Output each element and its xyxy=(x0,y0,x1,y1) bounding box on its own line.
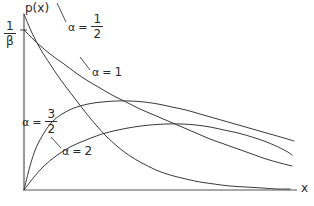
curve-label-alpha-two: α = 2 xyxy=(62,145,92,157)
x-axis-label: x xyxy=(301,182,308,194)
alpha-symbol: α xyxy=(62,146,69,157)
leader-line-alpha-half xyxy=(57,3,66,22)
equals-sign: = xyxy=(102,67,111,78)
y-axis-label: p(x) xyxy=(25,2,49,14)
probability-density-figure: p(x) 1 β x α = 1 2 α = 1 α = 3 xyxy=(0,0,314,206)
equation-alpha-one: α = 1 xyxy=(92,66,122,78)
equation-alpha-two: α = 2 xyxy=(62,145,92,157)
curve-alpha-one-half xyxy=(24,14,290,189)
curve-label-alpha-one: α = 1 xyxy=(92,66,122,78)
equation-alpha-three-halves: α = 3 2 xyxy=(22,109,58,136)
equals-sign: = xyxy=(78,22,87,33)
alpha-symbol: α xyxy=(92,67,99,78)
curve-label-alpha-three-halves: α = 3 2 xyxy=(22,109,58,136)
fraction-one-over-beta: 1 β xyxy=(4,20,16,47)
equation-alpha-one-half: α = 1 2 xyxy=(68,14,104,41)
alpha-value: 2 xyxy=(84,145,92,157)
leader-line-alpha-two xyxy=(51,137,61,148)
alpha-symbol: α xyxy=(22,117,29,128)
fraction-three-halves: 3 2 xyxy=(45,108,57,135)
y-axis-tick-label: 1 β xyxy=(3,22,17,49)
plot-canvas xyxy=(0,0,314,206)
equals-sign: = xyxy=(72,146,81,157)
fraction-denominator: 2 xyxy=(45,122,57,135)
curve-label-alpha-one-half: α = 1 2 xyxy=(68,14,104,41)
fraction-numerator: 1 xyxy=(91,13,103,27)
equals-sign: = xyxy=(32,117,41,128)
alpha-symbol: α xyxy=(68,22,75,33)
fraction-numerator: 1 xyxy=(4,20,16,34)
axes-group xyxy=(20,14,297,190)
alpha-value: 1 xyxy=(114,66,122,78)
fraction-denominator: 2 xyxy=(91,27,103,40)
leader-line-alpha-one xyxy=(80,57,90,70)
fraction-numerator: 3 xyxy=(45,108,57,122)
density-curves-group xyxy=(24,14,294,190)
fraction-one-half: 1 2 xyxy=(91,13,103,40)
fraction-denominator: β xyxy=(4,34,16,47)
